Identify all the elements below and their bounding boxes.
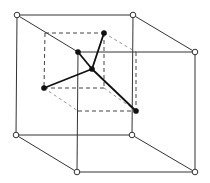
atom-neighbor-left bbox=[41, 85, 46, 90]
bond-center-top bbox=[92, 33, 104, 69]
inner-depth-top-right-edge bbox=[104, 33, 136, 52]
corner-atom-back-bottom-right bbox=[129, 132, 135, 138]
outer-back-right-edge bbox=[132, 15, 133, 135]
bonded-atoms bbox=[41, 30, 138, 113]
corner-atom-front-bottom-left bbox=[74, 169, 80, 175]
atom-neighbor-upper-left bbox=[75, 49, 80, 54]
inner-back-left-edge bbox=[44, 33, 45, 88]
outer-depth-bottom-left-edge bbox=[16, 135, 77, 172]
atom-center bbox=[89, 66, 94, 71]
corner-atom-back-top-left bbox=[14, 12, 20, 18]
inner-depth-bottom-left-edge bbox=[44, 88, 78, 111]
atom-neighbor-lower-right bbox=[133, 108, 138, 113]
atom-neighbor-top bbox=[101, 30, 106, 35]
bond-center-left bbox=[44, 69, 92, 88]
outer-depth-bottom-right-edge bbox=[132, 135, 195, 172]
outer-cube bbox=[16, 15, 195, 172]
corner-atom-front-bottom-right bbox=[192, 169, 198, 175]
bond-center-lower-right bbox=[92, 69, 136, 111]
outer-front-left-edge bbox=[77, 52, 78, 172]
bond-center-upper-left bbox=[78, 52, 92, 69]
corner-atom-back-top-right bbox=[130, 12, 136, 18]
bonds bbox=[44, 33, 136, 111]
outer-depth-top-right-edge bbox=[133, 15, 195, 52]
crystal-cell-diagram bbox=[0, 0, 210, 183]
inner-cube bbox=[44, 33, 136, 111]
corner-atom-front-top-right bbox=[192, 49, 198, 55]
outer-back-left-edge bbox=[16, 15, 17, 135]
corner-atom-back-bottom-left bbox=[13, 132, 19, 138]
